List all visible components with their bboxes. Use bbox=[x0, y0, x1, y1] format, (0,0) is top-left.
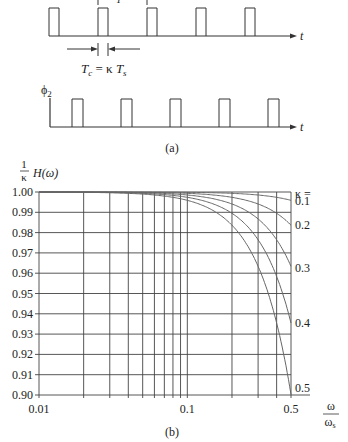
tc-dimension bbox=[67, 43, 140, 56]
t-axis-label-2: t bbox=[300, 120, 304, 134]
pulse bbox=[121, 99, 132, 127]
svg-text:0.5: 0.5 bbox=[284, 402, 299, 416]
t-axis-label-1: t bbox=[300, 29, 304, 43]
arrow-head-icon bbox=[290, 34, 297, 39]
caption-b: (b) bbox=[165, 425, 179, 439]
svg-text:1.00: 1.00 bbox=[12, 185, 33, 199]
phi1-waveform bbox=[49, 8, 255, 36]
svg-text:0.92: 0.92 bbox=[12, 347, 33, 361]
svg-text:H(ω): H(ω) bbox=[32, 166, 58, 180]
kappa-label: 0.2 bbox=[295, 218, 310, 232]
ts-label-partial: T bbox=[116, 0, 123, 5]
svg-text:1: 1 bbox=[21, 158, 27, 170]
x-tick-labels: 0.010.10.5 bbox=[29, 402, 299, 416]
pulse bbox=[219, 99, 230, 127]
svg-text:ωs: ωs bbox=[324, 415, 335, 430]
pulse bbox=[245, 8, 255, 36]
x-axis-title: ω ωs bbox=[323, 399, 339, 430]
arrow-right-icon bbox=[91, 47, 98, 52]
kappa-label: 0.4 bbox=[295, 316, 310, 330]
tc-equation: Tc = κ Ts bbox=[81, 61, 127, 78]
arrow-left-icon bbox=[108, 47, 115, 52]
caption-a: (a) bbox=[165, 141, 178, 155]
svg-text:0.96: 0.96 bbox=[12, 266, 33, 280]
pulse bbox=[196, 8, 206, 36]
svg-text:0.1: 0.1 bbox=[180, 402, 195, 416]
svg-text:0.91: 0.91 bbox=[12, 368, 33, 382]
svg-text:0.99: 0.99 bbox=[12, 205, 33, 219]
svg-text:ω: ω bbox=[327, 399, 335, 413]
svg-text:0.93: 0.93 bbox=[12, 327, 33, 341]
pulse bbox=[49, 8, 59, 36]
curve-kappa-0.4 bbox=[39, 192, 291, 323]
curve-kappa-0.2 bbox=[39, 192, 291, 225]
pulse bbox=[170, 99, 181, 127]
svg-text:0.90: 0.90 bbox=[12, 388, 33, 402]
figure: t T Tc = κ Ts ϕ2 t (a) 1 κ H(ω) 1.000.99… bbox=[0, 0, 348, 442]
svg-text:0.98: 0.98 bbox=[12, 226, 33, 240]
y-axis-title: 1 κ H(ω) bbox=[20, 158, 58, 183]
svg-text:0.01: 0.01 bbox=[29, 402, 50, 416]
y-tick-labels: 1.000.990.980.970.960.950.940.930.920.91… bbox=[12, 185, 33, 402]
kappa-labels: 0.10.20.30.40.5 bbox=[295, 194, 310, 395]
svg-text:0.97: 0.97 bbox=[12, 246, 33, 260]
pulse bbox=[72, 99, 83, 127]
phi2-waveform bbox=[72, 99, 279, 127]
kappa-label: 0.5 bbox=[295, 381, 310, 395]
svg-text:0.95: 0.95 bbox=[12, 287, 33, 301]
kappa-header: κ = bbox=[295, 187, 311, 201]
arrow-head-icon bbox=[290, 125, 297, 130]
svg-text:0.94: 0.94 bbox=[12, 307, 33, 321]
pulse bbox=[98, 8, 108, 36]
svg-text:κ: κ bbox=[21, 171, 27, 183]
pulse bbox=[268, 99, 279, 127]
pulse bbox=[147, 8, 157, 36]
kappa-label: 0.3 bbox=[295, 261, 310, 275]
phi2-label: ϕ2 bbox=[41, 83, 52, 99]
